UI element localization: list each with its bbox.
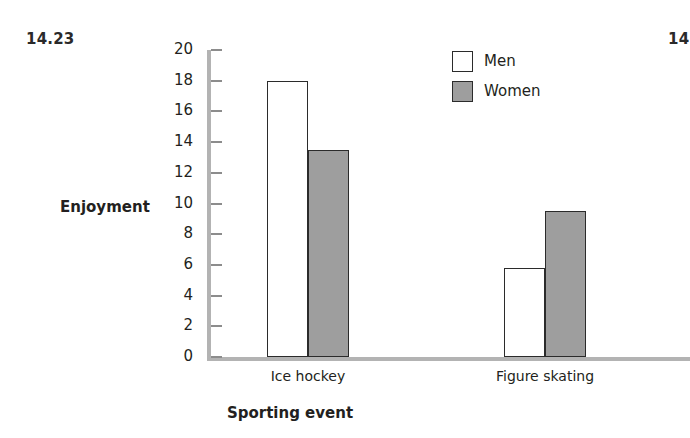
x-axis-title-text: Sporting event: [227, 404, 353, 422]
y-axis-tick: [211, 325, 222, 327]
y-axis-tick: [211, 356, 222, 358]
y-axis-tick-label: 20: [174, 42, 193, 57]
figure-page: 14.23 14 20181614121086420 Enjoyment Ice…: [0, 0, 690, 438]
y-axis-tick: [211, 49, 222, 51]
y-axis-tick-label: 10: [174, 196, 193, 211]
bar-men-figure-skating: [504, 268, 545, 357]
y-axis-tick: [211, 80, 222, 82]
legend-item-men: Men: [452, 46, 540, 76]
x-axis-label-ice-hockey: Ice hockey: [271, 368, 346, 384]
legend-swatch-women-icon: [452, 81, 473, 102]
x-axis-label-figure-skating: Figure skating: [496, 368, 594, 384]
y-axis-tick: [211, 264, 222, 266]
y-axis-tick-label: 18: [174, 73, 193, 88]
y-axis-tick: [211, 233, 222, 235]
legend-item-women: Women: [452, 76, 540, 106]
legend-label-women: Women: [484, 82, 540, 100]
y-axis-tick-label: 8: [183, 226, 193, 241]
legend-label-men: Men: [484, 52, 516, 70]
y-axis-tick-label: 6: [183, 257, 193, 272]
x-axis-line: [207, 357, 690, 361]
y-axis-tick: [211, 203, 222, 205]
y-axis-tick-label: 16: [174, 103, 193, 118]
legend-swatch-men-icon: [452, 51, 473, 72]
y-axis-tick: [211, 295, 222, 297]
y-axis-tick: [211, 172, 222, 174]
bar-chart: 20181614121086420 Enjoyment Ice hockeyFi…: [0, 0, 690, 438]
y-axis-tick-label: 14: [174, 134, 193, 149]
bar-men-ice-hockey: [267, 81, 308, 357]
chart-legend: Men Women: [452, 46, 540, 106]
x-axis-title: Sporting event: [0, 404, 690, 422]
y-axis-line: [207, 50, 211, 359]
y-axis-tick: [211, 110, 222, 112]
bar-women-ice-hockey: [308, 150, 349, 357]
y-axis-title: Enjoyment: [60, 198, 150, 216]
y-axis-tick-label: 0: [183, 349, 193, 364]
y-axis-tick: [211, 141, 222, 143]
bar-women-figure-skating: [545, 211, 586, 357]
y-axis-tick-label: 2: [183, 318, 193, 333]
y-axis-tick-label: 12: [174, 165, 193, 180]
y-axis-tick-label: 4: [183, 288, 193, 303]
